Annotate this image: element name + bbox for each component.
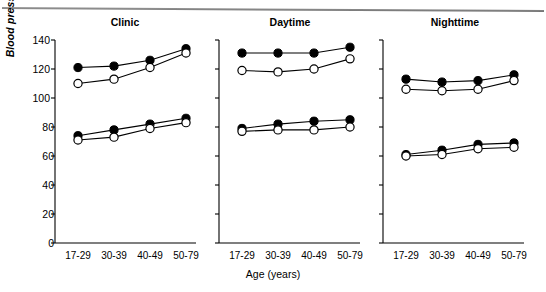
data-point-nighttime-1-0 [402, 85, 410, 93]
plot-area [0, 0, 546, 292]
data-point-nighttime-3-3 [510, 143, 518, 151]
data-point-nighttime-1-3 [510, 77, 518, 85]
data-point-nighttime-3-1 [438, 150, 446, 158]
series-line-nighttime-0 [406, 75, 514, 82]
data-point-daytime-0-0 [238, 49, 246, 57]
data-point-daytime-1-3 [346, 55, 354, 63]
data-point-daytime-1-1 [274, 68, 282, 76]
data-point-nighttime-0-0 [402, 75, 410, 83]
series-line-daytime-2 [242, 120, 350, 129]
data-point-nighttime-0-1 [438, 78, 446, 86]
data-point-nighttime-3-0 [402, 152, 410, 160]
data-point-daytime-0-3 [346, 43, 354, 51]
data-point-daytime-3-0 [238, 127, 246, 135]
data-point-daytime-2-2 [310, 117, 318, 125]
data-point-nighttime-1-1 [438, 87, 446, 95]
data-point-clinic-0-0 [74, 63, 82, 71]
data-point-clinic-1-1 [110, 75, 118, 83]
blood-pressure-figure: Blood pressure (mm Hg) Age (years) 0 20 … [0, 0, 546, 292]
data-point-nighttime-0-2 [474, 77, 482, 85]
data-point-daytime-3-3 [346, 123, 354, 131]
data-point-clinic-1-3 [182, 49, 190, 57]
series-line-daytime-3 [242, 127, 350, 131]
series-line-nighttime-3 [406, 147, 514, 156]
series-line-clinic-1 [78, 53, 186, 83]
data-point-daytime-0-1 [274, 49, 282, 57]
series-layer [74, 43, 518, 160]
data-point-clinic-0-1 [110, 62, 118, 70]
data-point-daytime-1-2 [310, 65, 318, 73]
series-line-nighttime-2 [406, 143, 514, 155]
data-point-daytime-3-2 [310, 126, 318, 134]
data-point-clinic-1-2 [146, 63, 154, 71]
data-point-daytime-3-1 [274, 126, 282, 134]
data-point-daytime-1-0 [238, 66, 246, 74]
series-line-daytime-1 [242, 59, 350, 72]
data-point-clinic-1-0 [74, 79, 82, 87]
series-line-nighttime-1 [406, 81, 514, 91]
data-point-nighttime-3-2 [474, 145, 482, 153]
series-line-clinic-3 [78, 123, 186, 140]
data-point-clinic-3-0 [74, 136, 82, 144]
axes-layer [51, 40, 524, 243]
data-point-daytime-0-2 [310, 49, 318, 57]
series-line-daytime-0 [242, 47, 350, 53]
data-point-clinic-3-2 [146, 124, 154, 132]
data-point-nighttime-1-2 [474, 85, 482, 93]
data-point-clinic-3-3 [182, 119, 190, 127]
data-point-clinic-3-1 [110, 133, 118, 141]
series-line-clinic-0 [78, 49, 186, 68]
